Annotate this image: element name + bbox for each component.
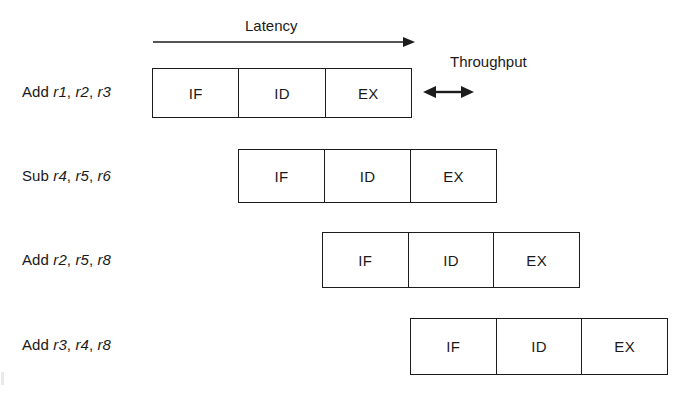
operand-register: r8 <box>97 336 111 353</box>
latency-arrow-icon <box>153 34 416 50</box>
pipeline-stage-cell: ID <box>238 69 324 117</box>
pipeline-stage-cell: EX <box>410 150 496 202</box>
instruction-mnemonic: Add <box>22 336 49 353</box>
instruction-mnemonic: Sub <box>22 167 49 184</box>
operand-register: r1 <box>53 83 67 100</box>
instruction-label: Add r3, r4, r8 <box>22 336 111 354</box>
pipeline-stage-cell: ID <box>496 319 582 374</box>
operand-register: r5 <box>75 167 89 184</box>
pipeline-stage-cell: IF <box>323 233 408 287</box>
pipeline-stage-cell: IF <box>153 69 238 117</box>
instruction-mnemonic: Add <box>22 251 49 268</box>
operand-register: r3 <box>97 83 111 100</box>
throughput-label: Throughput <box>450 53 527 70</box>
instruction-mnemonic: Add <box>22 83 49 100</box>
pipeline-stage-cell: EX <box>325 69 411 117</box>
pipeline-stage-cell: ID <box>408 233 494 287</box>
throughput-double-arrow-icon <box>423 83 474 101</box>
operand-register: r5 <box>75 251 89 268</box>
operand-register: r2 <box>75 83 89 100</box>
instruction-label: Sub r4, r5, r6 <box>22 167 111 185</box>
pipeline-stage-cell: IF <box>411 319 496 374</box>
pipeline-stage-cell: IF <box>239 150 324 202</box>
operand-register: r4 <box>75 336 89 353</box>
latency-label: Latency <box>245 17 298 34</box>
operand-register: r4 <box>53 167 67 184</box>
operand-register: r2 <box>53 251 67 268</box>
pipeline-latency-throughput-diagram: Add r1, r2, r3IFIDEXSub r4, r5, r6IFIDEX… <box>0 0 677 395</box>
operand-register: r8 <box>97 251 111 268</box>
pipeline-row: IFIDEX <box>322 232 580 288</box>
pipeline-stage-cell: ID <box>324 150 410 202</box>
pipeline-stage-cell: EX <box>581 319 667 374</box>
operand-register: r6 <box>97 167 111 184</box>
scan-artifact <box>1 372 4 385</box>
operand-register: r3 <box>53 336 67 353</box>
instruction-label: Add r1, r2, r3 <box>22 83 111 101</box>
instruction-label: Add r2, r5, r8 <box>22 251 111 269</box>
pipeline-row: IFIDEX <box>238 149 497 203</box>
pipeline-stage-cell: EX <box>493 233 579 287</box>
pipeline-row: IFIDEX <box>152 68 412 118</box>
pipeline-row: IFIDEX <box>410 318 668 375</box>
